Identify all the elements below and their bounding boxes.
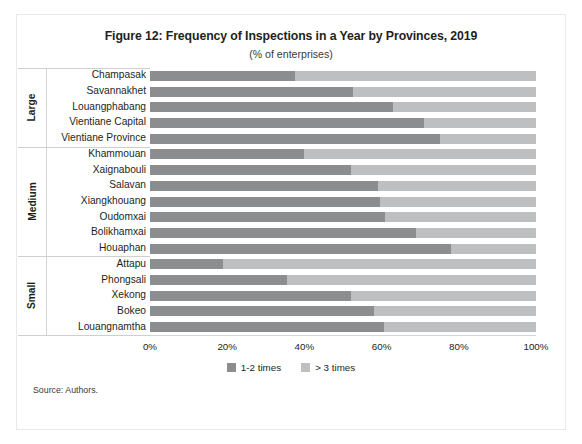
group-label-medium: Medium bbox=[18, 147, 46, 257]
bar-segment-gt-3-times bbox=[416, 228, 536, 238]
bar-segment-gt-3-times bbox=[223, 259, 536, 269]
bar-segment-1-2-times bbox=[150, 181, 378, 191]
bar-segment-gt-3-times bbox=[295, 71, 536, 81]
bar-row bbox=[150, 149, 536, 159]
bar-row bbox=[150, 71, 536, 81]
bar-row bbox=[150, 291, 536, 301]
bar-segment-1-2-times bbox=[150, 291, 351, 301]
bar-segment-1-2-times bbox=[150, 71, 295, 81]
bar-segment-1-2-times bbox=[150, 322, 384, 332]
bar-segment-1-2-times bbox=[150, 165, 351, 175]
x-tick-label: 20% bbox=[217, 341, 237, 352]
bar-segment-1-2-times bbox=[150, 244, 451, 254]
x-tick-label: 0% bbox=[143, 341, 157, 352]
category-label: Attapu bbox=[117, 259, 146, 269]
bar-segment-1-2-times bbox=[150, 212, 385, 222]
bar-segment-1-2-times bbox=[150, 275, 287, 285]
category-label: Xekong bbox=[111, 290, 146, 300]
bar-row bbox=[150, 197, 536, 207]
bar-segment-1-2-times bbox=[150, 306, 374, 316]
bar-row bbox=[150, 134, 536, 144]
bar-segment-1-2-times bbox=[150, 134, 440, 144]
chart-legend: 1-2 times> 3 times bbox=[0, 362, 582, 373]
bar-segment-gt-3-times bbox=[378, 181, 536, 191]
legend-swatch-icon bbox=[301, 363, 310, 372]
figure-page: Figure 12: Frequency of Inspections in a… bbox=[0, 0, 582, 444]
bar-row bbox=[150, 118, 536, 128]
bar-segment-gt-3-times bbox=[393, 102, 536, 112]
bar-row bbox=[150, 102, 536, 112]
bar-segment-gt-3-times bbox=[304, 149, 536, 159]
bar-segment-gt-3-times bbox=[353, 87, 536, 97]
category-label: Oudomxai bbox=[100, 212, 146, 222]
bar-segment-gt-3-times bbox=[351, 165, 536, 175]
x-tick-label: 80% bbox=[449, 341, 469, 352]
legend-swatch-icon bbox=[227, 363, 236, 372]
bar-segment-gt-3-times bbox=[384, 322, 536, 332]
category-label: Salavan bbox=[109, 180, 146, 190]
legend-item[interactable]: > 3 times bbox=[301, 362, 355, 373]
bar-row bbox=[150, 212, 536, 222]
bar-segment-gt-3-times bbox=[451, 244, 536, 254]
category-label: Bokeo bbox=[117, 306, 146, 316]
category-axis: ChampasakSavannakhetLouangphabangVientia… bbox=[46, 68, 151, 335]
legend-label: 1-2 times bbox=[241, 362, 281, 373]
chart-title: Figure 12: Frequency of Inspections in a… bbox=[0, 28, 582, 44]
bar-segment-1-2-times bbox=[150, 259, 223, 269]
bar-segment-1-2-times bbox=[150, 197, 380, 207]
plot-top-rule bbox=[18, 68, 150, 69]
bar-segment-1-2-times bbox=[150, 87, 353, 97]
legend-label: > 3 times bbox=[315, 362, 355, 373]
category-label: Bolikhamxai bbox=[91, 227, 146, 237]
category-label: Phongsali bbox=[101, 275, 146, 285]
bar-row bbox=[150, 275, 536, 285]
bar-row bbox=[150, 306, 536, 316]
bar-segment-gt-3-times bbox=[374, 306, 536, 316]
bar-segment-gt-3-times bbox=[440, 134, 537, 144]
bar-segment-gt-3-times bbox=[287, 275, 536, 285]
bar-row bbox=[150, 259, 536, 269]
group-label-small: Small bbox=[18, 256, 46, 335]
bars-area bbox=[150, 68, 536, 335]
plot-bottom-rule bbox=[18, 335, 150, 336]
category-label: Vientiane Province bbox=[61, 133, 146, 143]
bar-segment-gt-3-times bbox=[380, 197, 536, 207]
bar-segment-gt-3-times bbox=[351, 291, 536, 301]
category-label: Savannakhet bbox=[87, 86, 146, 96]
bar-row bbox=[150, 322, 536, 332]
bar-row bbox=[150, 228, 536, 238]
category-label: Champasak bbox=[92, 70, 146, 80]
category-label: Louangphabang bbox=[72, 102, 146, 112]
category-label: Xiangkhouang bbox=[81, 196, 146, 206]
group-label-text: Medium bbox=[27, 182, 38, 221]
legend-item[interactable]: 1-2 times bbox=[227, 362, 281, 373]
group-label-text: Small bbox=[27, 282, 38, 309]
bar-segment-1-2-times bbox=[150, 102, 393, 112]
x-tick-label: 100% bbox=[523, 341, 548, 352]
category-label: Vientiane Capital bbox=[69, 117, 146, 127]
plot-area: LargeMediumSmall ChampasakSavannakhetLou… bbox=[18, 68, 538, 356]
x-tick-label: 60% bbox=[372, 341, 392, 352]
bar-segment-1-2-times bbox=[150, 118, 424, 128]
bar-segment-1-2-times bbox=[150, 149, 304, 159]
bar-segment-gt-3-times bbox=[385, 212, 536, 222]
group-divider bbox=[18, 147, 150, 148]
group-axis: LargeMediumSmall bbox=[18, 68, 46, 335]
x-tick-label: 40% bbox=[295, 341, 315, 352]
chart-subtitle: (% of enterprises) bbox=[0, 46, 582, 62]
category-label: Houaphan bbox=[99, 243, 146, 253]
group-label-text: Large bbox=[27, 93, 38, 121]
x-axis-line bbox=[150, 335, 536, 336]
bar-segment-1-2-times bbox=[150, 228, 416, 238]
bar-row bbox=[150, 244, 536, 254]
bar-segment-gt-3-times bbox=[424, 118, 536, 128]
category-label: Louangnamtha bbox=[78, 322, 146, 332]
category-label: Khammouan bbox=[88, 149, 146, 159]
group-label-large: Large bbox=[18, 68, 46, 147]
x-axis: 0%20%40%60%80%100% bbox=[150, 335, 536, 357]
source-note: Source: Authors. bbox=[33, 385, 98, 395]
title-block: Figure 12: Frequency of Inspections in a… bbox=[0, 28, 582, 62]
bar-row bbox=[150, 87, 536, 97]
bar-row bbox=[150, 165, 536, 175]
bar-row bbox=[150, 181, 536, 191]
